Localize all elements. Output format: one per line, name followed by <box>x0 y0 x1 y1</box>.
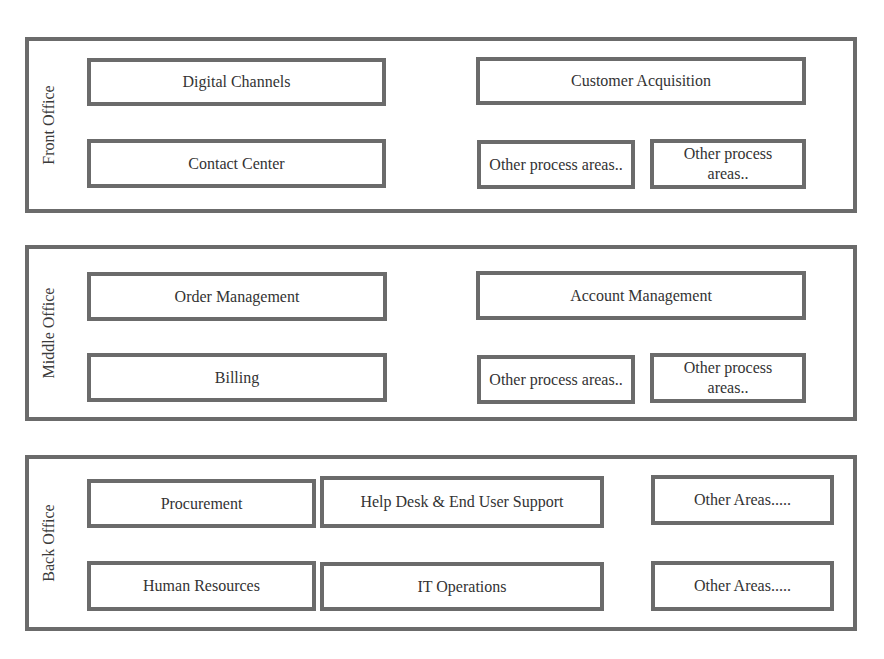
box-human-resources: Human Resources <box>87 561 316 611</box>
box-digital-channels: Digital Channels <box>87 58 386 106</box>
box-customer-acquisition: Customer Acquisition <box>476 57 806 105</box>
box-other-process-3: Other process areas.. <box>477 355 635 404</box>
box-other-process-2: Other process areas.. <box>650 139 806 189</box>
box-it-operations: IT Operations <box>320 562 604 611</box>
box-other-process-4: Other process areas.. <box>650 353 806 403</box>
box-contact-center: Contact Center <box>87 139 386 188</box>
box-billing: Billing <box>87 353 387 402</box>
box-other-areas-2: Other Areas..... <box>651 561 834 611</box>
box-help-desk: Help Desk & End User Support <box>320 476 604 528</box>
back-office-label: Back Office <box>40 504 58 581</box>
box-order-management: Order Management <box>87 272 387 321</box>
box-procurement: Procurement <box>87 479 316 528</box>
box-other-process-1: Other process areas.. <box>477 140 635 189</box>
box-account-management: Account Management <box>476 271 806 320</box>
front-office-label: Front Office <box>40 85 58 164</box>
box-other-areas-1: Other Areas..... <box>651 475 834 525</box>
middle-office-label: Middle Office <box>40 288 58 379</box>
